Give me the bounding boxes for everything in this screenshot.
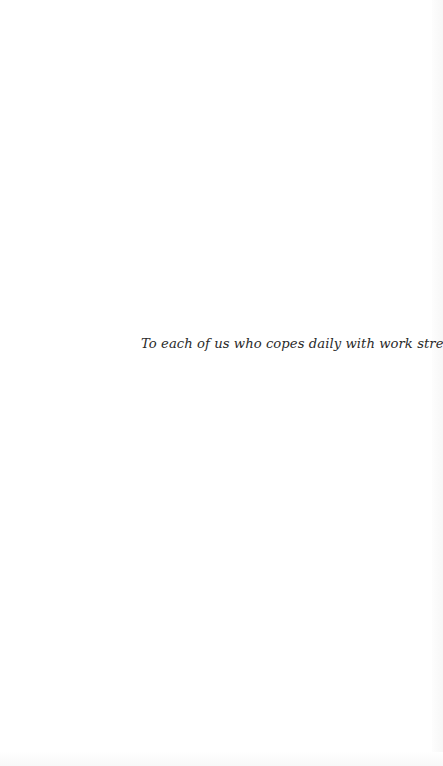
dedication-text: To each of us who copes daily with work … — [141, 334, 431, 354]
book-page: To each of us who copes daily with work … — [0, 0, 443, 766]
page-bottom-shadow — [0, 752, 443, 766]
page-edge-shadow — [432, 0, 443, 766]
